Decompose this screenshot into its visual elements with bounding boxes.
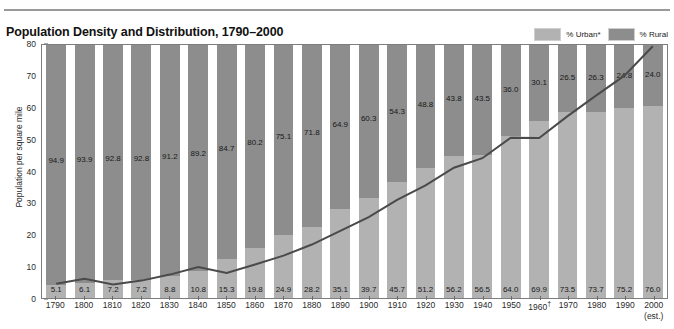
x-tick-label: 1840 [184,300,213,310]
cutoff-text-strip [0,0,674,9]
x-tick-label: 1820 [127,300,156,310]
density-line [56,46,653,284]
x-tick-label: 1830 [155,300,184,310]
x-tick-label: 1880 [298,300,327,310]
header-divider [4,9,670,11]
legend-label-rural: % Rural [640,30,668,39]
legend-swatch-urban [534,28,561,41]
x-tick-label: 1970 [554,300,583,310]
x-tick-label: 1860 [241,300,270,310]
x-tick-label: 1850 [212,300,241,310]
footnote-dagger: † [547,300,551,307]
y-tick-label: 10 [8,262,36,272]
x-tick-label: 1800 [70,300,99,310]
x-tick-label: 1900 [355,300,384,310]
y-tick-label: 0 [8,294,36,304]
legend-item-urban: % Urban* [534,28,600,41]
y-tick-label: 60 [8,103,36,113]
x-tick-label: 1940 [469,300,498,310]
density-line-series [42,45,667,298]
x-tick-label: 1890 [326,300,355,310]
y-tick-label: 50 [8,135,36,145]
x-tick-label: 1790 [41,300,70,310]
x-tick-label: 1960† [526,300,555,312]
plot-box: 94.95.193.96.192.87.292.87.291.28.889.21… [41,44,668,299]
legend-swatch-rural [608,28,635,41]
x-tick-label: 1920 [412,300,441,310]
y-tick-label: 30 [8,198,36,208]
y-tick-label: 80 [8,39,36,49]
x-tick-label: 1810 [98,300,127,310]
legend-label-urban: % Urban* [566,30,600,39]
x-tick-label: 1990 [611,300,640,310]
x-tick-label: 2000(est.) [640,300,669,321]
y-axis-ticks: 01020304050607080 [8,44,36,299]
legend-item-rural: % Rural [608,28,668,41]
x-tick-label: 1870 [269,300,298,310]
x-tick-label: 1950 [497,300,526,310]
y-tick-label: 70 [8,71,36,81]
y-tick-label: 40 [8,167,36,177]
page-title: Population Density and Distribution, 179… [6,25,283,39]
x-tick-label: 1980 [583,300,612,310]
x-tick-label: 1910 [383,300,412,310]
x-tick-note-est: (est.) [640,311,669,321]
plot-area: Population per square mile 0102030405060… [0,44,674,329]
x-axis: 1790180018101820183018401850186018701880… [41,300,668,329]
chart-page: Population Density and Distribution, 179… [0,0,674,329]
legend: % Urban* % Rural [534,28,668,41]
x-tick-label: 1930 [440,300,469,310]
y-tick-label: 20 [8,230,36,240]
